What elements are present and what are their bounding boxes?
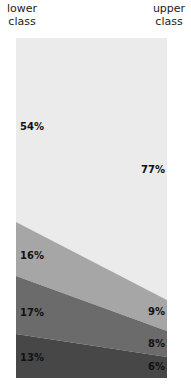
label-b3-right: 9% bbox=[148, 306, 165, 317]
stacked-area-chart: 54% 77% 16% 9% 17% 8% 13% 6% bbox=[0, 0, 191, 388]
label-b1-right: 6% bbox=[148, 361, 165, 372]
label-b4-left: 54% bbox=[20, 121, 44, 132]
label-b2-right: 8% bbox=[148, 338, 165, 349]
label-b3-left: 16% bbox=[20, 250, 44, 261]
label-b2-left: 17% bbox=[20, 307, 44, 318]
label-b1-left: 13% bbox=[20, 352, 44, 363]
label-b4-right: 77% bbox=[141, 164, 165, 175]
